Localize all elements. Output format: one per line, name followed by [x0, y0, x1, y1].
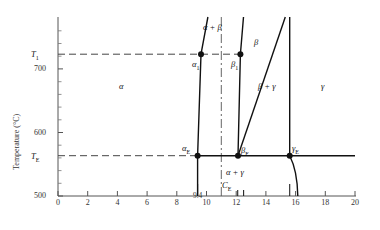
x-tick-12: 12 [226, 199, 246, 207]
region-label-alpha-plus-gamma: α + γ [226, 168, 244, 177]
x-tick-18: 18 [315, 199, 335, 207]
y-minor-ticks [58, 31, 62, 184]
y-tick-500: 500 [18, 192, 46, 200]
gamma-solvus-boundary [290, 17, 298, 196]
x-tick-14: 14 [256, 199, 276, 207]
x-tick-2: 2 [78, 199, 98, 207]
label-CE: CE [222, 181, 231, 192]
region-label-alpha: α [119, 82, 123, 91]
x-tick-0: 0 [48, 199, 68, 207]
phase-diagram-figure: Temperature (°C) 500 600 700 T1 TE 0 2 4… [0, 0, 380, 230]
x-tick-6: 6 [137, 199, 157, 207]
x-tick-9-4: 9.4 [187, 192, 209, 200]
label-beta1: β1 [231, 60, 238, 71]
point-alpha1 [198, 51, 204, 57]
y-tick-T1: T1 [31, 50, 39, 61]
label-betaE: βE [241, 146, 249, 157]
x-special-ticks [198, 184, 290, 196]
region-label-beta: β [254, 38, 258, 47]
x-tick-10: 10 [197, 199, 217, 207]
label-alpha1: α1 [192, 60, 199, 71]
region-label-alpha-plus-beta: α + β [203, 23, 222, 32]
x-tick-16: 16 [286, 199, 306, 207]
alpha-solvus-boundary [198, 17, 208, 196]
x-tick-8: 8 [167, 199, 187, 207]
point-beta1 [237, 51, 243, 57]
x-tick-20: 20 [345, 199, 365, 207]
x-tick-4: 4 [107, 199, 127, 207]
y-axis-title: Temperature (°C) [12, 114, 21, 170]
region-label-gamma: γ [321, 82, 324, 91]
label-alphaE: αE [182, 144, 190, 155]
y-tick-700: 700 [18, 65, 46, 73]
region-label-beta-plus-gamma: β + γ [258, 82, 276, 91]
y-major-ticks [58, 69, 63, 196]
label-gammaE: γE [292, 144, 299, 155]
beta-left-solvus-boundary [238, 17, 244, 156]
y-tick-600: 600 [18, 129, 46, 137]
y-tick-TE: TE [31, 152, 39, 163]
point-alphaE [195, 153, 201, 159]
